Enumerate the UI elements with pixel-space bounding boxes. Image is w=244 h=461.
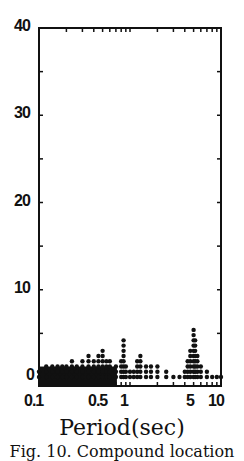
data-point	[75, 370, 79, 374]
figure-caption: Fig. 10. Compound location	[0, 442, 244, 461]
data-point	[37, 375, 41, 379]
data-point	[108, 364, 112, 368]
data-point	[215, 375, 219, 379]
data-point	[44, 370, 48, 374]
data-point	[138, 364, 142, 368]
data-point	[144, 364, 148, 368]
data-point	[80, 359, 84, 363]
data-point	[108, 359, 112, 363]
data-point	[100, 370, 104, 374]
data-point	[121, 354, 125, 358]
data-point	[155, 375, 159, 379]
data-point	[191, 333, 195, 337]
data-point	[86, 359, 90, 363]
data-point	[193, 349, 197, 353]
data-point	[164, 370, 168, 374]
data-point	[92, 375, 96, 379]
data-point	[199, 364, 203, 368]
data-point	[75, 375, 79, 379]
data-point	[70, 370, 74, 374]
data-point	[64, 370, 68, 374]
data-point	[96, 359, 100, 363]
data-point	[205, 370, 209, 374]
data-point	[80, 370, 84, 374]
data-point	[86, 364, 90, 368]
y-tick-label-10: 10	[14, 279, 30, 297]
data-point	[128, 375, 132, 379]
data-point	[128, 370, 132, 374]
data-point	[199, 375, 203, 379]
data-point	[50, 375, 54, 379]
data-point	[60, 364, 64, 368]
data-point	[44, 375, 48, 379]
data-point	[124, 370, 128, 374]
data-point	[80, 375, 84, 379]
data-point	[210, 375, 214, 379]
data-point	[121, 343, 125, 347]
x-tick-label-0.1: 0.1	[24, 392, 43, 410]
y-tick-label-0: 0	[26, 366, 34, 384]
data-point	[100, 375, 104, 379]
data-point	[149, 375, 153, 379]
data-point	[37, 370, 41, 374]
data-point	[124, 375, 128, 379]
data-point	[124, 364, 128, 368]
data-point	[44, 364, 48, 368]
data-point	[86, 375, 90, 379]
data-point	[149, 370, 153, 374]
data-point	[121, 338, 125, 342]
data-point	[96, 364, 100, 368]
data-point	[114, 370, 118, 374]
data-point	[75, 364, 79, 368]
data-point	[70, 375, 74, 379]
data-point	[155, 370, 159, 374]
y-tick-label-20: 20	[14, 192, 30, 210]
data-point	[70, 364, 74, 368]
data-point	[155, 364, 159, 368]
data-point	[60, 375, 64, 379]
data-point	[108, 370, 112, 374]
data-point	[144, 370, 148, 374]
data-point	[80, 364, 84, 368]
data-point	[114, 364, 118, 368]
data-point	[177, 375, 181, 379]
data-point	[144, 375, 148, 379]
data-point	[191, 328, 195, 332]
data-point	[121, 349, 125, 353]
data-point	[195, 354, 199, 358]
data-point	[138, 354, 142, 358]
x-tick-label-0.5: 0.5	[88, 392, 107, 410]
data-point	[100, 349, 104, 353]
data-point	[108, 375, 112, 379]
data-point	[138, 370, 142, 374]
data-point	[193, 338, 197, 342]
data-point	[100, 354, 104, 358]
data-point	[50, 370, 54, 374]
y-tick-label-30: 30	[14, 104, 30, 122]
data-point	[92, 370, 96, 374]
data-point	[60, 370, 64, 374]
x-tick-label-10: 10	[208, 392, 224, 410]
data-point	[100, 364, 104, 368]
data-point	[149, 364, 153, 368]
data-point	[50, 364, 54, 368]
data-point	[114, 375, 118, 379]
data-point	[92, 364, 96, 368]
data-point	[70, 359, 74, 363]
y-tick-label-40: 40	[14, 17, 30, 35]
plot-frame	[39, 28, 221, 386]
data-point	[96, 354, 100, 358]
x-tick-label-1: 1	[120, 392, 128, 410]
data-point	[195, 359, 199, 363]
data-point	[64, 375, 68, 379]
data-point	[199, 370, 203, 374]
data-point	[92, 359, 96, 363]
data-point	[138, 359, 142, 363]
x-axis-title: Period(sec)	[0, 415, 244, 440]
data-point	[193, 343, 197, 347]
data-point	[121, 359, 125, 363]
data-point	[138, 375, 142, 379]
x-tick-label-5: 5	[186, 392, 194, 410]
data-point	[100, 359, 104, 363]
